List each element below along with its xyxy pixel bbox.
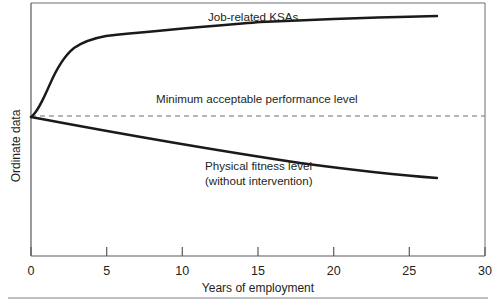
y-axis-title: Ordinate data [9, 109, 23, 182]
x-axis-ticks [31, 247, 485, 256]
annotation-job-related-ksas: Job-related KSAs [208, 10, 298, 23]
x-tick-label-20: 20 [327, 264, 341, 278]
x-tick-label-10: 10 [175, 264, 189, 278]
annotation-physical-fitness-line1: Physical fitness level [205, 159, 312, 172]
x-tick-label-25: 25 [402, 264, 416, 278]
figure-container: Job-related KSAs Minimum acceptable perf… [0, 0, 494, 301]
x-tick-label-0: 0 [28, 264, 35, 278]
x-tick-label-5: 5 [103, 264, 110, 278]
x-axis-title: Years of employment [202, 281, 315, 295]
annotation-minimum-acceptable-level: Minimum acceptable performance level [156, 92, 358, 105]
annotation-physical-fitness-line2: (without intervention) [205, 174, 313, 187]
x-tick-label-15: 15 [251, 264, 265, 278]
x-axis-tick-labels: 0 5 10 15 20 25 30 [28, 264, 492, 278]
x-tick-label-30: 30 [478, 264, 492, 278]
chart-svg: Job-related KSAs Minimum acceptable perf… [0, 0, 494, 301]
